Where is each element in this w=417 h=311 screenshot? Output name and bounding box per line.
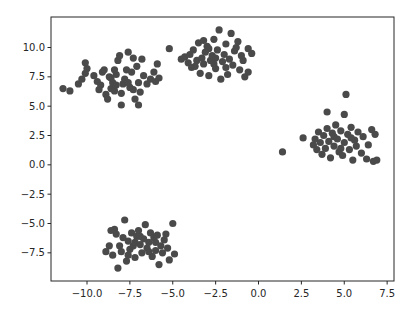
data-point [234, 38, 241, 45]
data-point [240, 57, 247, 64]
data-point [363, 155, 370, 162]
data-point [341, 111, 348, 118]
y-tick-label: −7.5 [21, 247, 45, 258]
data-point [118, 101, 125, 108]
data-point [166, 256, 173, 263]
data-point [162, 231, 169, 238]
x-tick-label: 5.0 [336, 288, 352, 299]
data-point [205, 45, 212, 52]
data-point [166, 45, 173, 52]
data-point [150, 69, 157, 76]
data-point [342, 91, 349, 98]
y-tick-label: 2.5 [29, 130, 45, 141]
data-point [164, 245, 171, 252]
x-tick-label: 7.5 [379, 288, 395, 299]
data-point [135, 101, 142, 108]
data-point [330, 133, 337, 140]
data-point [90, 72, 97, 79]
data-point [236, 66, 243, 73]
data-point [138, 56, 145, 63]
data-point [113, 82, 120, 89]
y-tick-label: −2.5 [21, 189, 45, 200]
data-point [346, 146, 353, 153]
data-point [131, 254, 138, 261]
data-point [95, 86, 102, 93]
data-point [137, 233, 144, 240]
data-point [337, 127, 344, 134]
data-point [107, 227, 114, 234]
data-point [214, 46, 221, 53]
data-point [107, 74, 114, 81]
data-point [210, 60, 217, 67]
data-point [142, 221, 149, 228]
y-tick-label: 7.5 [29, 71, 45, 82]
data-point [125, 79, 132, 86]
data-point [332, 121, 339, 128]
data-point [66, 87, 73, 94]
x-tick-label: 0.0 [251, 288, 267, 299]
data-point [322, 145, 329, 152]
y-tick-label: −5.0 [21, 218, 45, 229]
data-point [130, 86, 137, 93]
data-point [121, 216, 128, 223]
data-point [279, 148, 286, 155]
data-point [222, 40, 229, 47]
data-point [222, 64, 229, 71]
data-point [125, 252, 132, 259]
data-point [200, 37, 207, 44]
y-tick-label: 0.0 [29, 159, 45, 170]
y-tick-label: 5.0 [29, 101, 45, 112]
data-point [116, 52, 123, 59]
data-point [131, 239, 138, 246]
data-point [205, 72, 212, 79]
data-point [217, 76, 224, 83]
data-point [125, 49, 132, 56]
data-point [106, 242, 113, 249]
data-point [216, 26, 223, 33]
x-tick-label: −5.0 [161, 288, 185, 299]
data-point [137, 89, 144, 96]
data-point [169, 220, 176, 227]
data-point [171, 250, 178, 257]
data-point [372, 131, 379, 138]
x-tick-label: −7.5 [118, 288, 142, 299]
data-point [101, 66, 108, 73]
data-point [324, 108, 331, 115]
data-point [155, 261, 162, 268]
data-point [228, 30, 235, 37]
y-tick-label: 10.0 [23, 42, 45, 53]
data-point [245, 69, 252, 76]
data-point [365, 141, 372, 148]
data-point [339, 152, 346, 159]
data-point [155, 74, 162, 81]
data-point [192, 63, 199, 70]
data-point [104, 96, 111, 103]
data-point [118, 248, 125, 255]
data-point [358, 150, 365, 157]
data-point [82, 59, 89, 66]
data-point [360, 133, 367, 140]
data-point [320, 132, 327, 139]
data-point [118, 90, 125, 97]
data-point [373, 157, 380, 164]
scatter-chart: −10.0−7.5−5.0−2.50.02.55.07.5 −7.5−5.0−2… [0, 0, 417, 311]
data-point [59, 85, 66, 92]
data-point [154, 60, 161, 67]
data-point [348, 134, 355, 141]
data-point [133, 63, 140, 70]
data-point [312, 135, 319, 142]
data-point [330, 143, 337, 150]
x-tick-label: −2.5 [203, 288, 227, 299]
data-point [200, 60, 207, 67]
data-point [353, 143, 360, 150]
data-point [152, 239, 159, 246]
data-point [349, 157, 356, 164]
data-point [224, 71, 231, 78]
data-point [135, 79, 142, 86]
data-point [130, 55, 137, 62]
data-point [348, 124, 355, 131]
data-point [109, 252, 116, 259]
data-point [229, 62, 236, 69]
data-point [140, 72, 147, 79]
data-point [128, 69, 135, 76]
